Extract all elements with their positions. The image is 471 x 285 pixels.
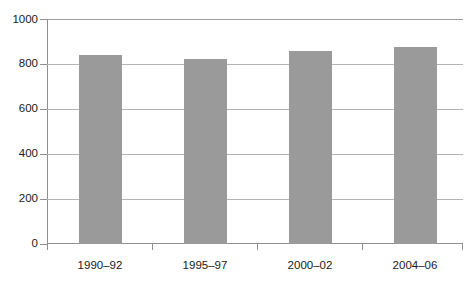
- bar-2004-06: [394, 47, 437, 244]
- y-axis-label-400: 400: [2, 148, 38, 160]
- x-axis-tick-4: [462, 244, 463, 250]
- y-axis-tick-800: [40, 64, 47, 65]
- bar-2000-02: [289, 51, 332, 244]
- y-axis-tick-0: [40, 244, 47, 245]
- y-axis-tick-200: [40, 199, 47, 200]
- bar-1995-97: [184, 59, 227, 244]
- bar-1990-92: [79, 55, 122, 244]
- y-axis-labels: 1000 800 600 400 200 0: [0, 0, 38, 285]
- x-axis-label-1995-97: 1995–97: [183, 260, 228, 272]
- x-axis-tick-3: [362, 244, 363, 250]
- y-axis-tick-400: [40, 154, 47, 155]
- bar-chart: 1000 800 600 400 200 0 1990–92 1995–97 2…: [0, 0, 471, 285]
- y-axis-label-600: 600: [2, 103, 38, 115]
- plot-area: [47, 19, 463, 244]
- x-axis-tick-2: [257, 244, 258, 250]
- x-axis-tick-1: [152, 244, 153, 250]
- y-axis-label-200: 200: [2, 193, 38, 205]
- y-axis-tick-600: [40, 109, 47, 110]
- y-axis-tick-1000: [40, 19, 47, 20]
- y-axis-label-800: 800: [2, 58, 38, 70]
- gridline-1000: [47, 19, 463, 20]
- y-axis-label-1000: 1000: [2, 14, 38, 26]
- x-axis-label-1990-92: 1990–92: [78, 260, 123, 272]
- x-axis-label-2000-02: 2000–02: [288, 260, 333, 272]
- x-axis-label-2004-06: 2004–06: [393, 260, 438, 272]
- x-axis-tick-0: [47, 244, 48, 250]
- y-axis-label-0: 0: [2, 238, 38, 250]
